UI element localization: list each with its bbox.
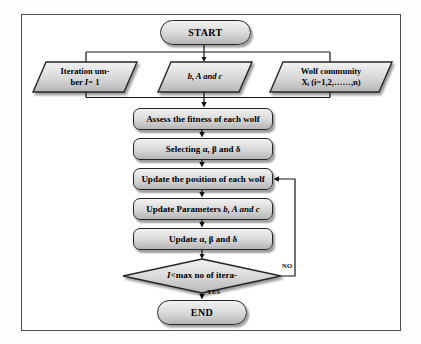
flowchart-canvas: START END Assess the fitness of each wol… — [0, 0, 421, 344]
step-assess-fitness: Assess the fitness of each wolf — [133, 108, 273, 130]
yes-label: YES — [207, 288, 220, 295]
input-line1: Iteration um- — [61, 66, 110, 77]
step-update-positions: Update the position of each wolf — [133, 168, 273, 190]
no-label: NO — [282, 262, 292, 269]
decision-variable: I< — [167, 270, 176, 282]
decision-max-iterations: I< max no of itera- — [123, 259, 281, 293]
end-label: END — [191, 307, 213, 318]
input-line1: b, A and c — [188, 71, 223, 82]
input-line2: Xᵢ (i=1,2,……,n) — [301, 77, 360, 88]
end-node: END — [157, 300, 247, 325]
input-iteration-counter: Iteration um- ber I= 1 — [33, 62, 137, 92]
step-label: Update the position of each wolf — [141, 174, 264, 184]
step-update-alpha-beta-delta: Update α, β and δ — [133, 228, 273, 250]
step-label: Assess the fitness of each wolf — [146, 114, 260, 124]
start-node: START — [160, 20, 251, 45]
step-label: Update Parameters b, A and c — [146, 204, 260, 214]
step-update-parameters: Update Parameters b, A and c — [133, 198, 273, 220]
input-line2: ber I= 1 — [71, 77, 100, 88]
step-select-alpha-beta-delta: Selecting α, β and δ — [133, 138, 273, 160]
start-label: START — [188, 27, 222, 38]
decision-text: max no of itera- — [176, 270, 237, 282]
input-line1: Wolf community — [301, 66, 362, 77]
input-wolf-community: Wolf community Xᵢ (i=1,2,……,n) — [270, 62, 392, 92]
input-coefficients: b, A and c — [158, 62, 252, 92]
step-label: Update α, β and δ — [169, 234, 237, 244]
step-label: Selecting α, β and δ — [166, 144, 241, 154]
